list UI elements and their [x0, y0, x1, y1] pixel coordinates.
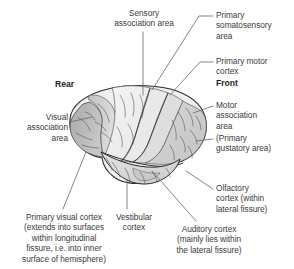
- label-primary-motor-cortex: Primary motor cortex: [216, 56, 294, 77]
- leader-primary-visual: [63, 152, 86, 209]
- label-visual-association-area: Visual association area: [6, 112, 68, 143]
- label-auditory-cortex: Auditory cortex (mainly lies within the …: [158, 224, 260, 255]
- label-sensory-association-area: Sensory association area: [96, 8, 192, 29]
- brain-diagram-page: Sensory association area Primary somatos…: [0, 0, 294, 269]
- label-olfactory-cortex: Olfactory cortex (within lateral fissure…: [216, 183, 294, 214]
- label-primary-somatosensory-area: Primary somatosensory area: [216, 10, 294, 41]
- leader-primary-motor: [170, 62, 213, 95]
- label-rear: Rear: [20, 79, 74, 89]
- label-motor-association-area: Motor association area: [216, 100, 294, 131]
- brain-body: [70, 86, 207, 184]
- label-primary-gustatory-area: (Primary gustatory area): [216, 133, 294, 154]
- label-vestibular-cortex: Vestibular cortex: [104, 212, 164, 233]
- label-front: Front: [216, 78, 294, 88]
- leader-olfactory: [186, 171, 213, 189]
